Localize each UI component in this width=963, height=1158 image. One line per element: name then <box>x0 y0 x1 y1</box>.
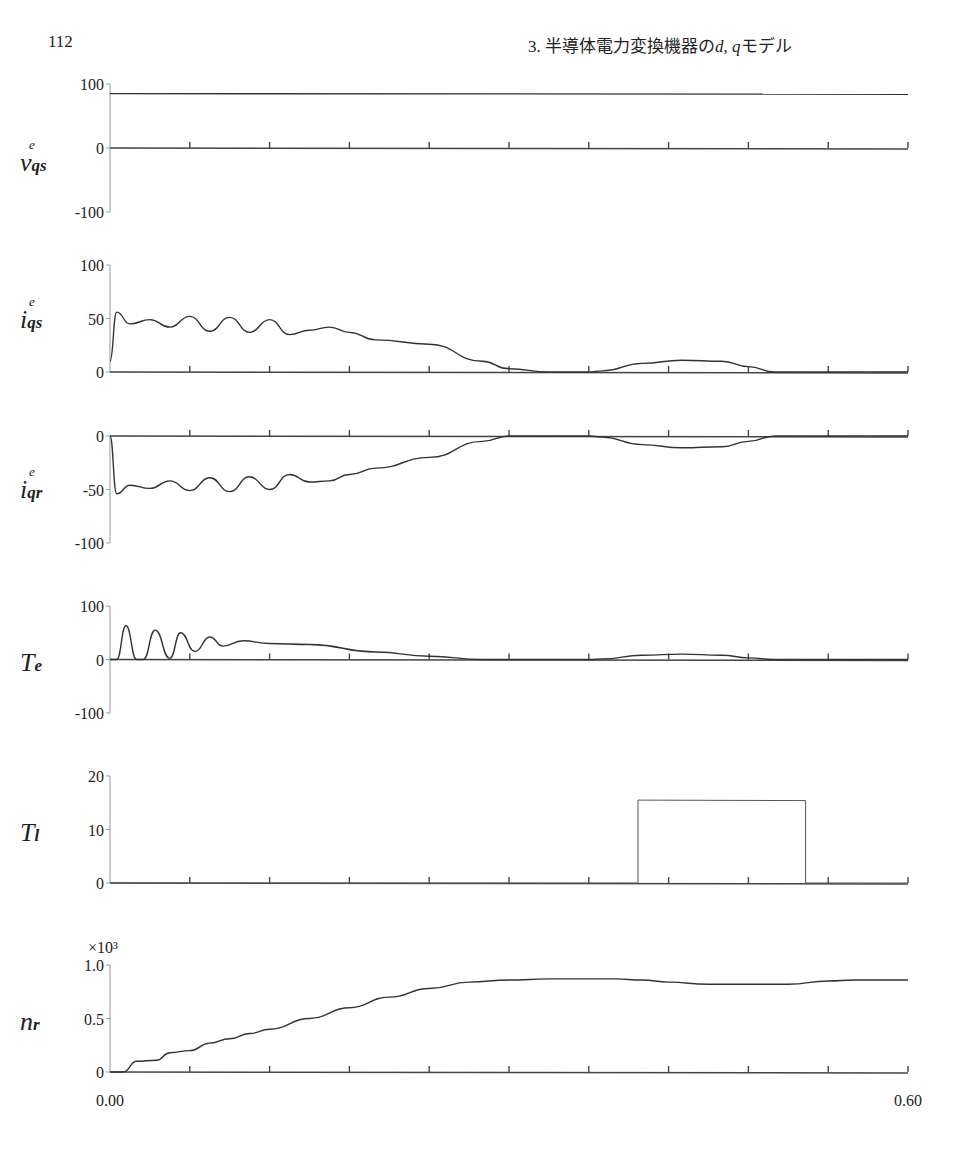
time-axis <box>110 1072 908 1073</box>
signal-trace <box>110 94 908 95</box>
panel-i-qr-e: 0-50-100iqre <box>20 428 908 552</box>
panel-i-qs-e: 100500iqse <box>20 257 908 381</box>
signal-superscript: e <box>29 464 35 479</box>
y-tick-label: -100 <box>75 705 104 722</box>
y-tick-label: 0 <box>96 428 104 445</box>
signal-superscript: e <box>29 294 35 309</box>
signal-trace <box>110 800 908 883</box>
panel-v-qs-e: 1000-100vqse <box>20 76 908 221</box>
y-tick-label: -100 <box>75 535 104 552</box>
y-tick-label: 100 <box>80 257 104 274</box>
signal-trace <box>110 312 908 372</box>
x-axis-start-label: 0.00 <box>96 1092 124 1109</box>
signal-label: nr <box>20 1007 40 1036</box>
y-tick-label: 0 <box>96 140 104 157</box>
y-tick-label: -50 <box>83 482 104 499</box>
signal-trace <box>110 979 908 1072</box>
signal-label: Tl <box>20 818 39 847</box>
panel-t-e: 1000-100Te <box>20 598 908 722</box>
y-tick-label: 0 <box>96 1064 104 1081</box>
signal-superscript: e <box>29 137 35 152</box>
y-tick-label: 0 <box>96 652 104 669</box>
y-tick-label: 0.5 <box>84 1011 104 1028</box>
signal-label: vqs <box>20 148 47 177</box>
y-tick-label: -100 <box>75 204 104 221</box>
y-tick-label: 0 <box>96 364 104 381</box>
panel-t-l: 20100Tl <box>20 768 908 892</box>
y-tick-label: 1.0 <box>84 957 104 974</box>
panel-n-r: 1.00.50nr×10³ <box>20 939 908 1081</box>
x-axis-end-label: 0.60 <box>894 1092 922 1109</box>
y-tick-label: 20 <box>88 768 104 785</box>
y-tick-label: 100 <box>80 76 104 93</box>
signal-trace <box>110 436 908 494</box>
y-tick-label: 10 <box>88 822 104 839</box>
y-tick-label: 50 <box>88 311 104 328</box>
signal-label: Te <box>20 648 42 677</box>
y-tick-label: 100 <box>80 598 104 615</box>
signal-label: iqs <box>20 305 43 334</box>
y-multiplier: ×10³ <box>88 939 118 956</box>
waveform-figure: 1000-100vqse100500iqse0-50-100iqre1000-1… <box>0 0 963 1158</box>
signal-label: iqr <box>20 475 43 504</box>
y-tick-label: 0 <box>96 875 104 892</box>
time-axis <box>110 148 908 149</box>
